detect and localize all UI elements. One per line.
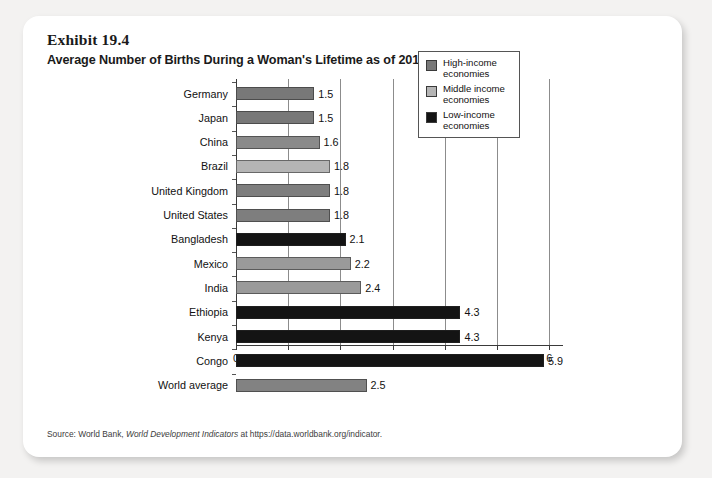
- source-note: Source: World Bank, World Development In…: [47, 429, 382, 439]
- source-publication: World Development Indicators: [126, 429, 238, 439]
- bar-germany[interactable]: [236, 87, 314, 100]
- y-tick-kenya: [232, 325, 236, 326]
- bar-congo[interactable]: [236, 354, 544, 367]
- y-tick-germany: [232, 82, 236, 83]
- legend-item-1[interactable]: Middle incomeeconomies: [426, 84, 512, 105]
- chart-legend: High-incomeeconomiesMiddle incomeeconomi…: [418, 51, 520, 138]
- legend-item-2[interactable]: Low-incomeeconomies: [426, 110, 512, 131]
- bar-chart: 0123456Germany1.5Japan1.5China1.6Brazil1…: [23, 16, 682, 457]
- legend-label-0: High-incomeeconomies: [443, 58, 497, 79]
- bar-brazil[interactable]: [236, 160, 330, 173]
- y-tick-india: [232, 276, 236, 277]
- source-prefix: Source: World Bank,: [47, 429, 126, 439]
- legend-label-line2-0: economies: [443, 69, 497, 80]
- bar-value-china: 1.6: [324, 136, 339, 148]
- source-suffix: at https://data.worldbank.org/indicator.: [238, 429, 382, 439]
- y-tick-world-average: [232, 374, 236, 375]
- legend-label-line1-2: Low-income: [443, 110, 495, 121]
- bar-japan[interactable]: [236, 111, 314, 124]
- exhibit-card: Exhibit 19.4 Average Number of Births Du…: [23, 16, 682, 457]
- bar-value-brazil: 1.8: [334, 160, 349, 172]
- legend-label-2: Low-incomeeconomies: [443, 110, 495, 131]
- y-tick-brazil: [232, 155, 236, 156]
- category-label-mexico: Mexico: [194, 258, 228, 270]
- bar-bangladesh[interactable]: [236, 233, 346, 246]
- bar-value-bangladesh: 2.1: [350, 233, 365, 245]
- category-label-united-states: United States: [163, 209, 228, 221]
- y-tick-ethiopia: [232, 301, 236, 302]
- category-label-bangladesh: Bangladesh: [171, 233, 228, 245]
- bar-value-kenya: 4.3: [464, 331, 479, 343]
- bar-united-kingdom[interactable]: [236, 184, 330, 197]
- y-tick-china: [232, 131, 236, 132]
- legend-label-line1-1: Middle income: [443, 84, 505, 95]
- legend-label-line2-1: economies: [443, 95, 505, 106]
- bar-value-united-states: 1.8: [334, 209, 349, 221]
- category-label-world-average: World average: [158, 379, 228, 391]
- y-tick-united-states: [232, 204, 236, 205]
- bar-value-germany: 1.5: [318, 88, 333, 100]
- legend-label-line1-0: High-income: [443, 58, 497, 69]
- category-label-congo: Congo: [196, 355, 228, 367]
- y-tick-mexico: [232, 252, 236, 253]
- category-label-germany: Germany: [184, 88, 228, 100]
- legend-item-0[interactable]: High-incomeeconomies: [426, 58, 512, 79]
- legend-swatch-icon-0: [426, 60, 437, 71]
- category-label-india: India: [205, 282, 228, 294]
- bar-ethiopia[interactable]: [236, 306, 460, 319]
- bar-value-japan: 1.5: [318, 112, 333, 124]
- bar-value-ethiopia: 4.3: [464, 306, 479, 318]
- category-label-china: China: [200, 136, 228, 148]
- bar-kenya[interactable]: [236, 330, 460, 343]
- bar-value-india: 2.4: [365, 282, 380, 294]
- legend-label-line2-2: economies: [443, 121, 495, 132]
- y-tick-bangladesh: [232, 228, 236, 229]
- x-axis-line: [236, 345, 563, 346]
- bar-mexico[interactable]: [236, 257, 351, 270]
- legend-swatch-icon-1: [426, 86, 437, 97]
- bar-value-mexico: 2.2: [355, 258, 370, 270]
- bar-world-average[interactable]: [236, 379, 367, 392]
- category-label-japan: Japan: [199, 112, 228, 124]
- legend-label-1: Middle incomeeconomies: [443, 84, 505, 105]
- y-tick-united-kingdom: [232, 179, 236, 180]
- bar-united-states[interactable]: [236, 209, 330, 222]
- bar-value-world-average: 2.5: [371, 379, 386, 391]
- y-tick-congo: [232, 349, 236, 350]
- bar-india[interactable]: [236, 281, 361, 294]
- bar-value-united-kingdom: 1.8: [334, 185, 349, 197]
- gridline-x-6: [549, 79, 550, 345]
- category-label-united-kingdom: United Kingdom: [151, 185, 228, 197]
- category-label-kenya: Kenya: [197, 331, 228, 343]
- category-label-ethiopia: Ethiopia: [189, 306, 228, 318]
- y-tick-japan: [232, 106, 236, 107]
- legend-swatch-icon-2: [426, 112, 437, 123]
- category-label-brazil: Brazil: [201, 160, 228, 172]
- bar-china[interactable]: [236, 136, 320, 149]
- bar-value-congo: 5.9: [548, 355, 563, 367]
